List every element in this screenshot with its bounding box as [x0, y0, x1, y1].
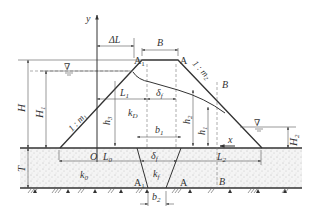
dimension-crest-width: B	[142, 37, 178, 50]
point-A-crest: A	[180, 55, 188, 66]
svg-text:b2: b2	[152, 191, 161, 204]
y-axis-label: y	[85, 13, 91, 24]
svg-text:L1: L1	[119, 87, 129, 100]
water-level-symbol-downstream: ∇	[254, 118, 260, 128]
earth-dam-seepage-diagram: ∇ ∇ y x O ΔL B A1 A 1 : m1 1 : m2 B H	[0, 0, 314, 219]
foundation-layer	[20, 148, 302, 193]
svg-text:h3: h3	[101, 116, 114, 125]
svg-text:H2: H2	[287, 134, 301, 147]
point-A-base: A	[180, 177, 188, 188]
svg-text:B: B	[157, 37, 163, 48]
dimension-h1: h1	[196, 107, 209, 146]
dimension-b2: b2	[140, 191, 174, 206]
svg-text:b1: b1	[155, 124, 164, 137]
upstream-slope-label: 1 : m1	[66, 111, 89, 134]
svg-text:h2: h2	[181, 115, 194, 124]
dimension-H1: H1	[33, 71, 47, 148]
upstream-water-level: ∇	[18, 60, 142, 75]
dimension-delta-f-upper: δf	[147, 87, 176, 100]
dimension-L1: L1	[97, 87, 147, 100]
section-B-label: B	[222, 79, 228, 90]
downstream-water-level: ∇	[240, 118, 296, 131]
point-B-base: B	[219, 176, 225, 187]
dimension-H: H	[15, 60, 28, 148]
origin-label: O	[90, 151, 97, 162]
svg-text:h1: h1	[196, 127, 209, 136]
svg-text:H1: H1	[33, 107, 47, 119]
base-pressure-arrows	[33, 189, 287, 193]
dimension-h2: h2	[181, 90, 194, 146]
dimension-b1: b1	[137, 124, 181, 137]
svg-text:T: T	[15, 165, 27, 172]
water-level-symbol: ∇	[64, 62, 70, 72]
downstream-slope-label: 1 : m2	[190, 58, 213, 81]
dimension-H2: H2	[287, 127, 301, 148]
svg-text:H: H	[15, 103, 27, 113]
dimension-delta-L: ΔL	[97, 34, 134, 46]
svg-text:ΔL: ΔL	[108, 34, 121, 45]
x-axis-label: x	[227, 134, 233, 145]
svg-text:δf: δf	[156, 87, 164, 100]
core-coefficient-label: kD	[128, 107, 138, 120]
